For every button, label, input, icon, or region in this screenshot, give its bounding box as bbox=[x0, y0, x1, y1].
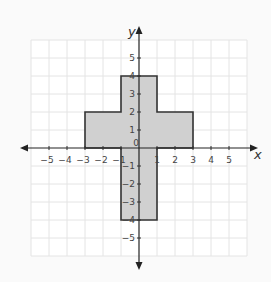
coordinate-plane: −5 −4 −3 −2 −1 1 2 3 4 5 5 4 3 2 1 −1 −2… bbox=[0, 0, 271, 282]
y-tick-label: −1 bbox=[122, 161, 135, 171]
x-tick-label: −4 bbox=[58, 155, 72, 165]
y-tick-label: 3 bbox=[129, 89, 135, 99]
y-tick-label: 2 bbox=[129, 107, 135, 117]
x-axis-label: x bbox=[253, 147, 262, 162]
x-tick-label: 2 bbox=[172, 155, 178, 165]
y-tick-label: −5 bbox=[122, 233, 135, 243]
y-axis-label: y bbox=[127, 24, 136, 39]
y-tick-label: −2 bbox=[122, 179, 135, 189]
y-axis-down-arrow-icon bbox=[136, 262, 143, 270]
origin-label: 0 bbox=[133, 138, 139, 148]
y-tick-label: 4 bbox=[129, 71, 135, 81]
x-tick-label: −5 bbox=[40, 155, 53, 165]
y-tick-label: 1 bbox=[129, 125, 135, 135]
y-axis-up-arrow-icon bbox=[136, 26, 143, 34]
x-tick-label: 3 bbox=[190, 155, 196, 165]
y-tick-label: −3 bbox=[122, 197, 135, 207]
x-tick-label: −2 bbox=[94, 155, 107, 165]
x-tick-label: 1 bbox=[154, 155, 160, 165]
y-tick-label: 5 bbox=[129, 53, 135, 63]
y-tick-label: −4 bbox=[122, 215, 136, 225]
x-axis-left-arrow-icon bbox=[20, 145, 28, 152]
x-tick-label: 5 bbox=[226, 155, 232, 165]
x-tick-label: 4 bbox=[208, 155, 214, 165]
x-tick-label: −3 bbox=[76, 155, 89, 165]
